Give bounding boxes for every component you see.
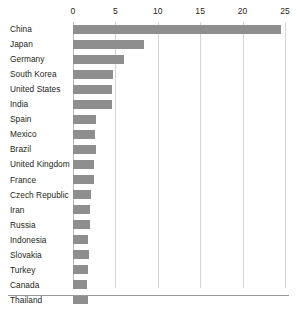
x-tick-label-5: 5	[113, 6, 118, 16]
bar	[73, 40, 144, 49]
bar-row	[73, 263, 285, 278]
bar-row	[73, 127, 285, 142]
bar	[73, 100, 112, 109]
bar-row	[73, 52, 285, 67]
category-label: Canada	[10, 278, 39, 293]
category-label: Japan	[10, 37, 33, 52]
category-label: India	[10, 97, 28, 112]
bar	[73, 70, 113, 79]
bar	[73, 280, 87, 289]
bar	[73, 265, 88, 274]
bar-row	[73, 278, 285, 293]
category-label: Iran	[10, 203, 25, 218]
bar	[73, 25, 281, 34]
bar	[73, 190, 91, 199]
bar-row	[73, 112, 285, 127]
bar-row	[73, 22, 285, 37]
category-label: South Korea	[10, 67, 57, 82]
bar	[73, 85, 112, 94]
x-tick-label-25: 25	[280, 6, 290, 16]
bottom-rule	[8, 295, 289, 296]
category-label: Turkey	[10, 263, 35, 278]
x-tick-label-0: 0	[71, 6, 76, 16]
category-label: Germany	[10, 52, 44, 67]
bar-row	[73, 157, 285, 172]
category-label: Indonesia	[10, 233, 46, 248]
bar	[73, 220, 90, 229]
category-label: China	[10, 22, 32, 37]
bar-row	[73, 203, 285, 218]
category-label: Russia	[10, 218, 36, 233]
category-label: Spain	[10, 112, 31, 127]
bar	[73, 130, 95, 139]
bar-row	[73, 142, 285, 157]
bar	[73, 55, 124, 64]
bar	[73, 145, 96, 154]
x-tick-label-20: 20	[238, 6, 248, 16]
bar-row	[73, 248, 285, 263]
bar	[73, 205, 90, 214]
bar-row	[73, 233, 285, 248]
plot-area	[73, 22, 285, 288]
bar-row	[73, 97, 285, 112]
category-label: Slovakia	[10, 248, 42, 263]
bar-row	[73, 188, 285, 203]
category-label: Czech Republic	[10, 188, 69, 203]
category-label: United States	[10, 82, 60, 97]
bar-row	[73, 67, 285, 82]
x-tick-label-15: 15	[195, 6, 205, 16]
bar	[73, 160, 94, 169]
bar	[73, 250, 89, 259]
gridline-25	[285, 22, 286, 288]
bar-row	[73, 82, 285, 97]
x-tick-label-10: 10	[153, 6, 163, 16]
category-label: Brazil	[10, 142, 31, 157]
horizontal-bar-chart: ChinaJapanGermanySouth KoreaUnited State…	[0, 0, 297, 310]
bar	[73, 175, 94, 184]
category-label: United Kingdom	[10, 157, 70, 172]
bar	[73, 235, 88, 244]
category-label: France	[10, 173, 36, 188]
bar	[73, 295, 88, 304]
bar-row	[73, 173, 285, 188]
bar-row	[73, 218, 285, 233]
category-axis-labels: ChinaJapanGermanySouth KoreaUnited State…	[0, 22, 70, 288]
category-label: Mexico	[10, 127, 37, 142]
bar	[73, 115, 96, 124]
bar-rows	[73, 22, 285, 288]
bar-row	[73, 37, 285, 52]
